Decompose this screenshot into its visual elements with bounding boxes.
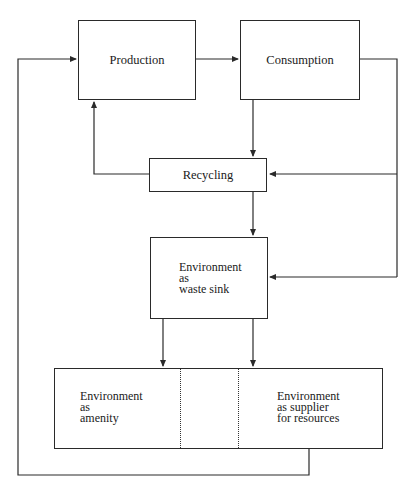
production-label: Production (110, 53, 165, 68)
waste-sink-label: Environment as waste sink (179, 262, 242, 295)
environment-outcomes-box: Environment as amenity Environment as su… (54, 368, 383, 449)
recycling-box: Recycling (149, 158, 267, 192)
right-loop-line (359, 59, 397, 277)
dotted-divider-right (238, 369, 239, 448)
amenity-label: Environment as amenity (80, 391, 143, 424)
supplier-label: Environment as supplier for resources (277, 391, 340, 424)
consumption-box: Consumption (240, 20, 360, 100)
recycling-label: Recycling (183, 168, 234, 183)
waste-sink-box: Environment as waste sink (150, 237, 268, 319)
diagram-canvas: Production Consumption Recycling Environ… (0, 0, 411, 484)
arrow-recycling-to-production (94, 102, 149, 174)
consumption-label: Consumption (266, 53, 333, 68)
dotted-divider-left (180, 369, 181, 448)
production-box: Production (78, 20, 196, 100)
